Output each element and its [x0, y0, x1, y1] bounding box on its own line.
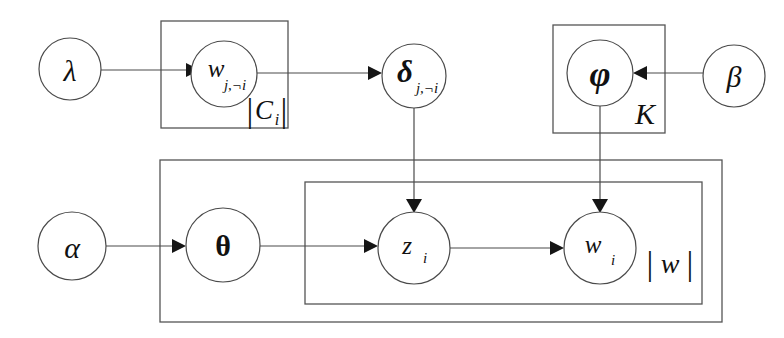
node-z-i[interactable]: z i: [378, 212, 450, 284]
plate-word-bar-right: |: [687, 245, 694, 282]
node-w-i-subscript: i: [611, 252, 615, 268]
plate-k-label-text: K: [634, 97, 657, 130]
node-theta-label: θ: [215, 229, 231, 262]
plate-c-i-bar-left: |: [247, 92, 254, 129]
edge-z-to-w: [450, 241, 564, 255]
node-z-i-circle[interactable]: [378, 212, 450, 284]
node-z-i-label: z: [401, 232, 412, 259]
plate-c-i-label: | C i |: [247, 92, 288, 129]
plate-word-label: | w |: [647, 245, 694, 282]
node-w-j-not-i-subscript: j,¬i: [222, 77, 246, 93]
node-theta[interactable]: θ: [186, 208, 260, 282]
node-delta-j-not-i-label: δ: [397, 54, 413, 89]
edge-alpha-to-theta: [106, 239, 186, 253]
node-w-j-not-i-label: w: [208, 55, 225, 82]
node-alpha[interactable]: α: [38, 212, 106, 280]
plate-word-label-main: w: [661, 248, 680, 279]
plate-c-i-label-sub: i: [275, 111, 279, 128]
node-w-i[interactable]: w i: [564, 212, 636, 284]
node-alpha-label: α: [64, 231, 81, 264]
node-delta-j-not-i-circle[interactable]: [382, 44, 446, 108]
node-phi-label: φ: [589, 54, 610, 94]
node-lambda-label: λ: [63, 54, 77, 87]
plate-k-label: K: [634, 97, 657, 130]
node-w-i-label: w: [585, 231, 602, 258]
edge-w-to-delta: [257, 66, 382, 80]
edge-lambda-to-w: [101, 63, 200, 77]
plate-c-i-label-main: C: [255, 95, 274, 125]
node-phi[interactable]: φ: [567, 40, 633, 106]
node-beta-label: β: [726, 60, 742, 93]
node-delta-j-not-i[interactable]: δ j,¬i: [382, 44, 446, 108]
edge-beta-to-phi: [633, 66, 703, 80]
node-delta-j-not-i-subscript: j,¬i: [414, 80, 438, 96]
node-beta[interactable]: β: [703, 45, 765, 107]
edge-theta-to-z: [260, 239, 378, 253]
node-lambda[interactable]: λ: [39, 38, 101, 100]
plate-c-i-bar-right: |: [281, 92, 288, 129]
node-z-i-subscript: i: [423, 250, 427, 266]
graphical-model-figure: λ w j,¬i δ j,¬i φ β α: [0, 0, 784, 338]
plate-word-bar-left: |: [647, 245, 654, 282]
plate-diagram-canvas: λ w j,¬i δ j,¬i φ β α: [0, 0, 784, 338]
